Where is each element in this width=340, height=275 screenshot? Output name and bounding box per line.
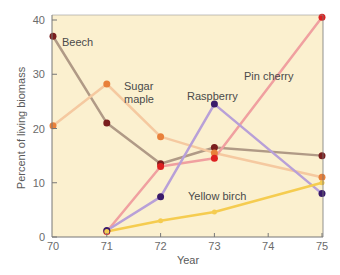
- y-tick-label: 0: [39, 231, 45, 243]
- y-tick-label: 30: [33, 68, 45, 80]
- beech-label: Beech: [62, 36, 93, 48]
- plot-area: [52, 15, 323, 237]
- pin-cherry-point: [211, 155, 218, 162]
- sugar-maple-point: [157, 133, 164, 140]
- x-tick-label: 73: [208, 240, 220, 252]
- raspberry-point: [319, 190, 326, 197]
- x-tick-label: 75: [316, 240, 328, 252]
- y-tick-label: 40: [33, 14, 45, 26]
- y-axis-label: Percent of living biomass: [15, 66, 27, 189]
- y-tick-label: 20: [33, 123, 45, 135]
- pin-cherry-label: Pin cherry: [244, 70, 294, 82]
- sugar-maple-label: Sugar: [124, 80, 154, 92]
- raspberry-label: Raspberry: [187, 90, 238, 102]
- beech-point: [319, 152, 326, 159]
- yellow-birch-point: [320, 180, 325, 185]
- beech-point: [103, 120, 110, 127]
- yellow-birch-label: Yellow birch: [188, 190, 246, 202]
- yellow-birch-point: [212, 210, 217, 215]
- beech-point: [50, 33, 57, 40]
- raspberry-point: [157, 193, 164, 200]
- x-axis-label: Year: [177, 254, 200, 266]
- yellow-birch-point: [158, 218, 163, 223]
- x-tick-label: 72: [154, 240, 166, 252]
- y-tick-label: 10: [33, 177, 45, 189]
- line-chart: BeechSugarmaplePin cherryRaspberryYellow…: [0, 0, 340, 275]
- sugar-maple-point: [319, 174, 326, 181]
- x-tick-label: 70: [47, 240, 59, 252]
- x-tick-label: 74: [262, 240, 274, 252]
- sugar-maple-point: [103, 81, 110, 88]
- x-tick-label: 71: [101, 240, 113, 252]
- pin-cherry-point: [157, 163, 164, 170]
- sugar-maple-label: maple: [124, 93, 154, 105]
